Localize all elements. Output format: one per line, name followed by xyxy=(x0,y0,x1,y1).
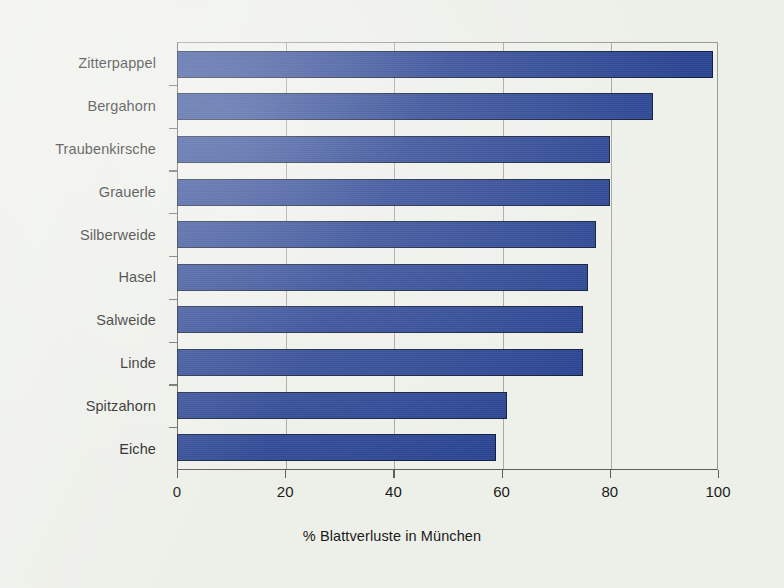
x-axis-tick-label: 100 xyxy=(688,483,748,500)
y-axis-tick xyxy=(169,384,177,385)
y-axis-label-row: Spitzahorn xyxy=(0,384,168,427)
plot-area xyxy=(177,42,718,470)
y-axis-tick xyxy=(169,128,177,129)
x-axis-tick-label: 40 xyxy=(363,483,423,500)
bar-row xyxy=(178,43,717,86)
bar xyxy=(177,434,496,461)
y-axis-label-row: Zitterpappel xyxy=(0,42,168,85)
bar-row xyxy=(178,256,717,299)
x-axis-tick xyxy=(610,470,611,478)
bar-row xyxy=(178,213,717,256)
x-axis-tick-label: 0 xyxy=(147,483,207,500)
y-axis-label-row: Linde xyxy=(0,342,168,385)
y-axis-tick-label: Spitzahorn xyxy=(86,398,156,414)
x-axis-tick xyxy=(502,470,503,478)
bar xyxy=(177,51,713,78)
y-axis-label-row: Grauerle xyxy=(0,170,168,213)
y-axis-category-labels: Zitterpappel Bergahorn Traubenkirsche Gr… xyxy=(0,42,168,470)
bar-series xyxy=(178,43,717,469)
y-axis-tick xyxy=(169,342,177,343)
bar xyxy=(177,349,583,376)
bar xyxy=(177,306,583,333)
bar xyxy=(177,136,610,163)
y-axis-label-row: Eiche xyxy=(0,427,168,470)
y-axis-tick-label: Bergahorn xyxy=(87,98,156,114)
x-axis-tick-label: 20 xyxy=(255,483,315,500)
x-axis-tick-label: 80 xyxy=(580,483,640,500)
bar-row xyxy=(178,86,717,129)
x-axis-title: % Blattverluste in München xyxy=(0,528,784,544)
bar-row xyxy=(178,341,717,384)
x-axis-tick xyxy=(285,470,286,478)
y-axis-tick xyxy=(169,256,177,257)
y-axis-tick-label: Grauerle xyxy=(99,184,156,200)
y-axis-tick-label: Hasel xyxy=(118,269,156,285)
y-axis-tick xyxy=(169,427,177,428)
y-axis-tick-label: Eiche xyxy=(119,441,156,457)
y-axis-label-row: Hasel xyxy=(0,256,168,299)
y-axis-label-row: Traubenkirsche xyxy=(0,128,168,171)
bar xyxy=(177,221,596,248)
bar-chart-figure: Zitterpappel Bergahorn Traubenkirsche Gr… xyxy=(0,0,784,588)
y-axis-tick xyxy=(169,170,177,171)
y-axis-label-row: Salweide xyxy=(0,299,168,342)
x-axis-tick-label: 60 xyxy=(472,483,532,500)
y-axis-tick-label: Silberweide xyxy=(80,227,156,243)
y-axis-tick-label: Linde xyxy=(120,355,156,371)
y-axis-tick-label: Traubenkirsche xyxy=(55,141,156,157)
y-axis-tick-label: Salweide xyxy=(96,312,156,328)
bar-row xyxy=(178,426,717,469)
bar-row xyxy=(178,128,717,171)
bar xyxy=(177,179,610,206)
y-axis-label-row: Bergahorn xyxy=(0,85,168,128)
y-axis-tick-label: Zitterpappel xyxy=(78,55,156,71)
bar xyxy=(177,93,653,120)
y-axis-label-row: Silberweide xyxy=(0,213,168,256)
x-axis-tick xyxy=(177,470,178,478)
bar-row xyxy=(178,384,717,427)
y-axis-tick xyxy=(169,213,177,214)
bar xyxy=(177,392,507,419)
x-axis-tick xyxy=(718,470,719,478)
bar xyxy=(177,264,588,291)
y-axis-tick xyxy=(169,85,177,86)
x-axis-tick xyxy=(393,470,394,478)
bar-row xyxy=(178,171,717,214)
y-axis-tick xyxy=(169,299,177,300)
bar-row xyxy=(178,299,717,342)
